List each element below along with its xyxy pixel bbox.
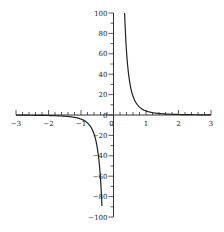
y-tick-label: −40 xyxy=(93,152,108,160)
y-tick-label: 100 xyxy=(94,10,107,18)
curve-left-branch xyxy=(16,115,102,206)
curve-right-branch xyxy=(125,13,211,115)
y-tick-label: 40 xyxy=(99,71,108,79)
plot-canvas: −3−2−10123100806040200−20−40−60−80−100 xyxy=(0,0,224,232)
x-tick-label: −3 xyxy=(11,120,21,128)
x-tick-label: −2 xyxy=(43,120,53,128)
x-tick-label: 1 xyxy=(144,120,148,128)
x-tick-label: 0 xyxy=(109,120,113,128)
y-tick-label: −100 xyxy=(88,214,107,222)
y-tick-label: 80 xyxy=(99,30,108,38)
y-tick-label: −80 xyxy=(93,193,108,201)
y-tick-label: 20 xyxy=(99,91,108,99)
x-tick-label: 2 xyxy=(176,120,180,128)
y-tick-label: 0 xyxy=(103,112,107,120)
y-tick-label: 60 xyxy=(99,50,108,58)
x-tick-label: 3 xyxy=(209,120,213,128)
